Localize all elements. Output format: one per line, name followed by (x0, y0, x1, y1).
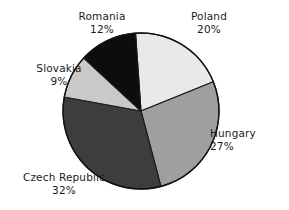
pie-label-romania-value: 12% (58, 23, 146, 36)
pie-label-hungary-value: 27% (210, 140, 288, 153)
pie-label-slovakia: Slovakia 9% (18, 62, 100, 88)
pie-label-hungary: Hungary 27% (210, 127, 288, 153)
pie-label-czech-republic-value: 32% (6, 184, 122, 197)
pie-label-czech-republic-name: Czech Republic (6, 171, 122, 184)
pie-label-hungary-name: Hungary (210, 127, 288, 140)
pie-label-poland-name: Poland (168, 10, 250, 23)
pie-label-slovakia-value: 9% (18, 75, 100, 88)
pie-label-poland-value: 20% (168, 23, 250, 36)
pie-label-romania-name: Romania (58, 10, 146, 23)
pie-label-poland: Poland 20% (168, 10, 250, 36)
pie-label-slovakia-name: Slovakia (18, 62, 100, 75)
pie-label-czech-republic: Czech Republic 32% (6, 171, 122, 197)
pie-label-romania: Romania 12% (58, 10, 146, 36)
pie-slice-group (63, 33, 219, 189)
pie-chart-figure: Romania 12% Poland 20% Slovakia 9% Hunga… (0, 0, 289, 210)
